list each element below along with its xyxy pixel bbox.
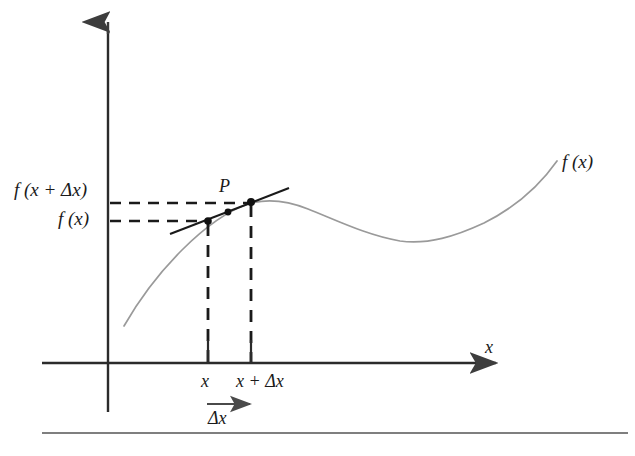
label-f-x-plus-delta-x: f (x + Δx): [14, 180, 87, 199]
label-point-p: P: [219, 177, 230, 195]
label-curve-f-x: f (x): [562, 152, 593, 171]
label-tick-x: x: [201, 372, 209, 390]
label-x-axis: x: [485, 338, 493, 356]
diagram-canvas: [0, 0, 635, 456]
point-f-x-plus-delta-x: [247, 198, 255, 206]
label-f-x: f (x): [58, 209, 89, 228]
point-f-x: [204, 217, 212, 225]
function-curve: [124, 161, 557, 326]
point-p: [225, 209, 232, 216]
label-tick-x-plus-delta-x: x + Δx: [236, 372, 284, 390]
label-delta-x-span: Δx: [208, 409, 227, 427]
derivative-diagram: f (x + Δx) f (x) f (x) P x x x + Δx Δx: [0, 0, 635, 456]
